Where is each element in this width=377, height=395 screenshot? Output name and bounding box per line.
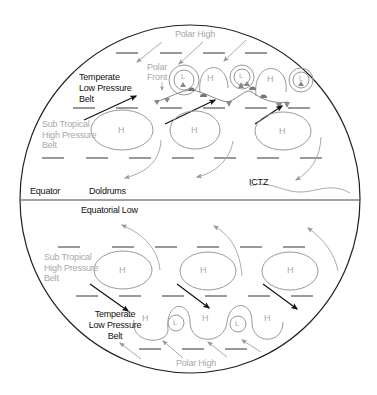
subtropical-belt-north-label: Sub Tropical High Pressure Belt	[42, 119, 102, 151]
equatorial-low-label: Equatorial Low	[81, 205, 138, 216]
polar-front-line	[154, 81, 304, 109]
wave-cell-h3: H	[264, 313, 270, 324]
subtropical-high-north-1: H	[118, 125, 124, 136]
subtropical-high-south-1: H	[119, 265, 125, 276]
polar-high-south-label: Polar High	[176, 358, 216, 369]
front-cell-l3: L	[299, 75, 303, 83]
temperate-belt-south-label: Temperate Low Pressure Belt	[80, 309, 150, 342]
westerlies-south	[90, 284, 297, 311]
subtropical-high-south-3: H	[287, 265, 293, 276]
wave-cell-h1: H	[142, 313, 148, 324]
front-cell-l1: L	[181, 73, 185, 81]
polar-high-north-label: Polar High	[175, 29, 215, 40]
wave-cell-h2: H	[202, 313, 208, 324]
pressure-belts-diagram	[0, 0, 377, 395]
polar-easterlies-north	[137, 40, 246, 64]
subtropical-high-south-2: H	[200, 265, 206, 276]
doldrums-label: Doldrums	[89, 186, 126, 197]
temperate-belt-north-label: Temperate Low Pressure Belt	[79, 72, 149, 105]
polar-front-label: Polar Front	[147, 62, 173, 82]
subtropical-high-north-3: H	[279, 126, 285, 137]
southern-temperate-wave	[134, 306, 283, 341]
equator-label: Equator	[30, 186, 60, 197]
subtropical-belt-south-label: Sub Tropical High Pressure Belt	[44, 252, 104, 284]
front-cell-l2: L	[239, 72, 243, 80]
trade-winds-south	[122, 225, 338, 276]
wave-cell-l1: L	[173, 319, 177, 327]
subtropical-high-north-2: H	[191, 125, 197, 136]
polar-front-cells	[169, 65, 313, 96]
front-cell-h1: H	[207, 73, 213, 84]
front-cell-h2: H	[267, 74, 273, 85]
wave-cell-l2: L	[235, 320, 239, 328]
ictz-label: ICTZ	[249, 177, 268, 188]
